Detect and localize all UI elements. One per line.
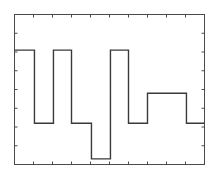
figure-container: [0, 0, 217, 187]
step-waveform-chart: [0, 0, 217, 187]
